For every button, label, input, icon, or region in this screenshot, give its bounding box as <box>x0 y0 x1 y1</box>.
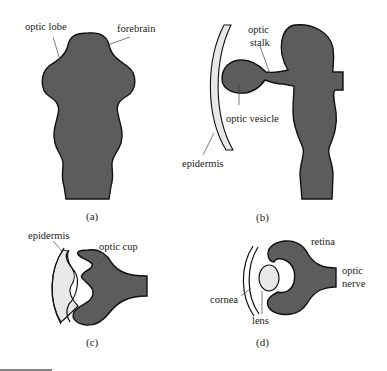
label-epidermis-b: epidermis <box>182 158 223 169</box>
leader-epidermis-c <box>53 241 62 251</box>
panel-d: retina optic nerve cornea lens (d) <box>210 236 366 349</box>
label-forebrain: forebrain <box>117 23 156 34</box>
caption-b: (b) <box>256 211 269 224</box>
label-retina: retina <box>311 236 335 247</box>
label-epidermis-c: epidermis <box>28 230 69 241</box>
label-optic-lobe: optic lobe <box>25 21 67 32</box>
leader-forebrain <box>105 37 130 46</box>
label-lens: lens <box>252 315 269 326</box>
label-optic-stalk-line1: optic <box>248 24 269 35</box>
label-cornea: cornea <box>210 294 238 305</box>
leader-epidermis-b <box>203 133 214 155</box>
cornea-inner-arc <box>249 247 259 314</box>
caption-a: (a) <box>86 210 99 223</box>
label-optic-cup: optic cup <box>99 241 138 252</box>
label-optic-vesicle: optic vesicle <box>226 113 279 124</box>
caption-c: (c) <box>86 336 99 349</box>
label-optic-nerve-line1: optic <box>342 265 363 276</box>
panel-b: optic stalk optic vesicle epidermis (b) <box>182 24 343 224</box>
label-optic-stalk-line2: stalk <box>250 37 271 48</box>
panel-a: optic lobe forebrain (a) <box>25 21 156 223</box>
lens <box>259 265 279 291</box>
neural-tube-shape <box>42 33 135 199</box>
panel-c: epidermis optic cup (c) <box>28 230 147 349</box>
brain-column-shape <box>222 25 343 199</box>
caption-d: (d) <box>256 336 269 349</box>
label-optic-nerve-line2: nerve <box>342 278 366 289</box>
eye-development-diagram: optic lobe forebrain (a) optic stalk opt… <box>0 0 387 371</box>
leader-optic-lobe <box>53 37 61 63</box>
optic-cup-shape <box>73 250 147 325</box>
